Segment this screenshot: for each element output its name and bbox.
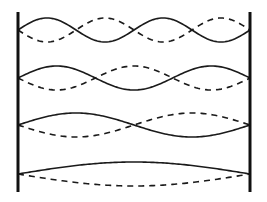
wave-solid-line xyxy=(18,18,250,42)
wave-dashed-line xyxy=(18,66,250,90)
mode-1 xyxy=(18,162,250,186)
mode-2 xyxy=(18,113,250,137)
mode-4 xyxy=(18,18,250,42)
wave-dashed-line xyxy=(18,174,250,186)
standing-wave-modes xyxy=(18,18,250,186)
mode-3 xyxy=(18,66,250,90)
wave-solid-line xyxy=(18,162,250,174)
wave-solid-line xyxy=(18,113,250,137)
standing-wave-diagram xyxy=(0,0,267,202)
wave-solid-line xyxy=(18,66,250,90)
